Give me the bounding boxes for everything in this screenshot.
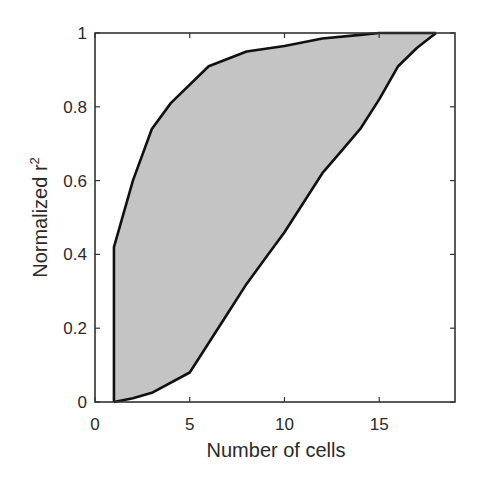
y-axis-label-text: Normalized r — [29, 164, 51, 278]
range-band-area — [114, 33, 436, 402]
x-tick-label: 15 — [370, 415, 389, 434]
y-tick-label: 0.6 — [63, 172, 87, 191]
y-axis-label: Normalized r2 — [27, 157, 51, 278]
y-tick-label: 0.2 — [63, 319, 87, 338]
y-tick-label: 0.4 — [63, 245, 87, 264]
y-tick-label: 1 — [78, 24, 87, 43]
y-tick-label: 0.8 — [63, 98, 87, 117]
area-chart: 051015 00.20.40.60.81 Number of cells No… — [0, 0, 479, 484]
range-band — [114, 33, 436, 402]
x-tick-label: 10 — [275, 415, 294, 434]
x-tick-label: 5 — [185, 415, 194, 434]
x-axis-label: Number of cells — [207, 439, 346, 461]
y-axis-label-superscript: 2 — [27, 157, 42, 164]
x-tick-label: 0 — [90, 415, 99, 434]
y-tick-label: 0 — [78, 393, 87, 412]
